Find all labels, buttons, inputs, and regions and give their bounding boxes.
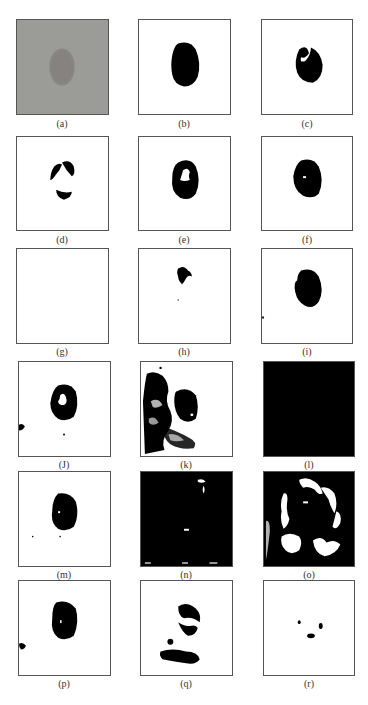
all-black-segmentation <box>264 362 354 456</box>
lesion-blob <box>262 20 352 114</box>
panel-h-result <box>138 248 231 344</box>
panel-r-label: (r) <box>263 678 355 690</box>
lesion-fragments <box>141 581 232 675</box>
panel-i-result <box>261 248 353 344</box>
panel-q-label: (q) <box>140 678 232 690</box>
lesion-blob <box>139 20 230 114</box>
lesion-fragment <box>139 249 230 343</box>
panel-g-label: (g) <box>16 346 108 358</box>
lesion-blob-with-hole <box>139 137 230 230</box>
lesion-fragments <box>17 137 108 230</box>
panel-f-result <box>261 136 353 231</box>
panel-h-label: (h) <box>138 346 230 358</box>
noisy-segmentation <box>264 472 354 566</box>
panel-b-label: (b) <box>138 118 230 130</box>
panel-o-result <box>263 471 355 567</box>
panel-j-result <box>18 361 111 457</box>
panel-m-result <box>18 471 111 567</box>
lesion-blob <box>19 472 110 566</box>
panel-p-result <box>18 580 111 676</box>
panel-a-label: (a) <box>16 118 108 130</box>
noisy-segmentation <box>141 362 232 456</box>
original-lesion-image <box>17 20 108 114</box>
panel-e-label: (e) <box>138 234 230 246</box>
lesion-blob <box>19 581 110 675</box>
panel-f-label: (f) <box>261 234 353 246</box>
panel-l-label: (l) <box>263 459 355 471</box>
panel-b-mask <box>138 19 231 115</box>
panel-c-result <box>261 19 353 115</box>
panel-e-result <box>138 136 231 231</box>
lesion-blob <box>262 137 352 230</box>
mostly-black-segmentation <box>141 472 232 566</box>
panel-g-result <box>16 248 109 344</box>
panel-n-result <box>140 471 233 567</box>
panel-p-label: (p) <box>18 678 110 690</box>
panel-k-result <box>140 361 233 457</box>
panel-d-label: (d) <box>16 234 108 246</box>
panel-q-result <box>140 580 233 676</box>
panel-d-result <box>16 136 109 231</box>
lesion-blob <box>262 249 352 343</box>
panel-c-label: (c) <box>261 118 353 130</box>
panel-a-original-image <box>16 19 109 115</box>
panel-l-result <box>263 361 355 457</box>
panel-k-label: (k) <box>140 459 232 471</box>
panel-j-label: (J) <box>18 459 110 471</box>
lesion-blob-with-hole <box>19 362 110 456</box>
lesion-fragments <box>264 581 354 675</box>
panel-i-label: (i) <box>261 346 353 358</box>
panel-r-result <box>263 580 355 676</box>
